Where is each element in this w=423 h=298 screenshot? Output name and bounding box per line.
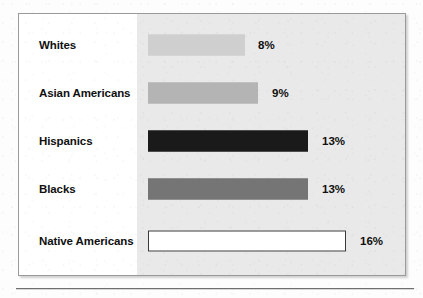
bottom-divider-rule <box>16 288 414 290</box>
bar-category-label: Whites <box>39 39 151 51</box>
bar-asian-americans <box>148 83 258 104</box>
chart-row: Native Americans 16% <box>19 228 405 254</box>
chart-row: Asian Americans 9% <box>19 80 405 106</box>
bar-category-label: Native Americans <box>39 235 151 247</box>
bar-value-label: 16% <box>360 235 383 247</box>
bar-value-label: 13% <box>322 135 345 147</box>
chart-row: Blacks 13% <box>19 176 405 202</box>
chart-frame: Whites 8% Asian Americans 9% Hispanics 1… <box>18 13 406 276</box>
bar-native-americans <box>148 231 346 252</box>
bar-whites <box>148 35 245 56</box>
chart-row: Whites 8% <box>19 32 405 58</box>
bar-category-label: Hispanics <box>39 135 151 147</box>
bar-blacks <box>148 179 308 200</box>
chart-row: Hispanics 13% <box>19 128 405 154</box>
bar-category-label: Blacks <box>39 183 151 195</box>
bar-value-label: 8% <box>258 39 275 51</box>
bar-hispanics <box>148 131 308 152</box>
figure-root: Whites 8% Asian Americans 9% Hispanics 1… <box>0 0 423 298</box>
bar-value-label: 9% <box>272 87 289 99</box>
bar-value-label: 13% <box>322 183 345 195</box>
bar-category-label: Asian Americans <box>39 87 151 99</box>
